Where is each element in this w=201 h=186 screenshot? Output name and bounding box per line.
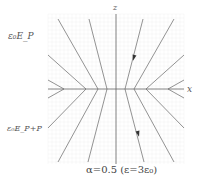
x-axis-label: x	[187, 84, 192, 94]
field-line	[48, 55, 86, 89]
z-axis-label: z	[113, 3, 117, 12]
caption: α=0.5 (ε=3ε₀)	[86, 164, 157, 175]
diagram-svg	[0, 0, 201, 186]
lower-region-label: ε₀E_P+P	[7, 124, 42, 133]
upper-region-label: ε₀E_P	[8, 31, 34, 41]
field-line-diagram: ε₀E_P ε₀E_P+P z x α=0.5 (ε=3ε₀)	[0, 0, 201, 186]
field-line	[146, 55, 184, 89]
